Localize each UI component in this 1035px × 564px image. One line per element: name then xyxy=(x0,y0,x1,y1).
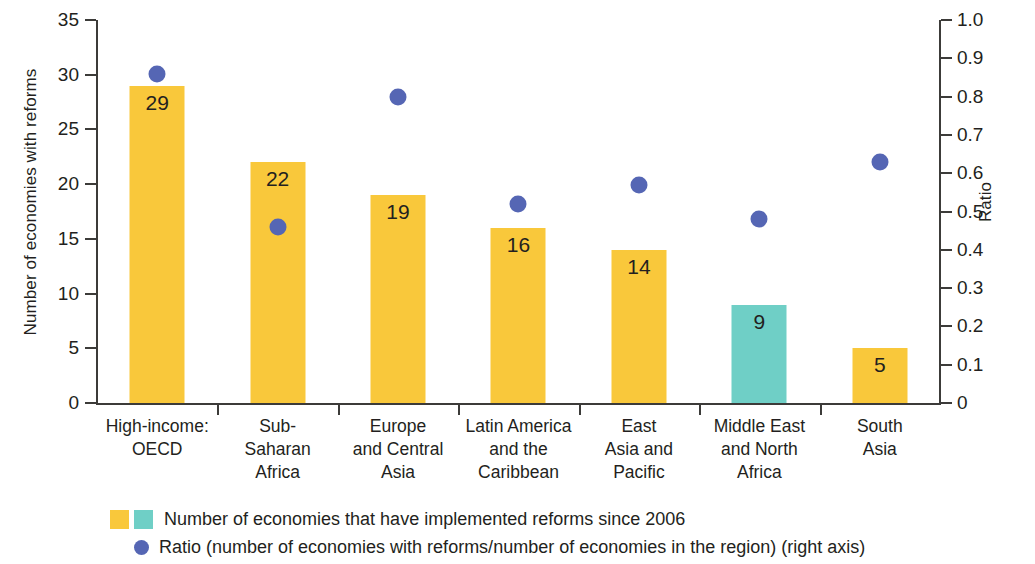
y-axis-left-tick-label: 30 xyxy=(17,65,79,84)
bar: 5 xyxy=(852,348,907,403)
x-axis-category-label: SouthAsia xyxy=(812,415,948,461)
y-axis-right-tick xyxy=(941,96,952,98)
y-axis-right-tick-label: 0.6 xyxy=(957,163,1027,182)
y-axis-left-tick-label: 10 xyxy=(17,284,79,303)
ratio-dot xyxy=(510,195,527,212)
bar-value-label: 16 xyxy=(491,234,546,255)
x-axis-category-label: EastAsia andPacific xyxy=(571,415,707,484)
y-axis-right-tick-label: 0 xyxy=(957,393,1027,412)
y-axis-right-tick-label: 0.1 xyxy=(957,355,1027,374)
legend-label-bars: Number of economies that have implemente… xyxy=(164,507,685,531)
y-axis-left-tick xyxy=(85,19,96,21)
category-label-line: Asia xyxy=(812,438,948,461)
x-axis-category-label: Sub-SaharanAfrica xyxy=(209,415,345,484)
legend-swatch-yellow xyxy=(110,510,129,529)
bar-value-label: 14 xyxy=(611,256,666,277)
y-axis-right-tick xyxy=(941,134,952,136)
y-axis-right-tick xyxy=(941,325,952,327)
y-axis-right-tick-label: 0.2 xyxy=(957,316,1027,335)
category-label-line: OECD xyxy=(89,438,225,461)
x-axis-tick xyxy=(338,405,340,415)
y-axis-left-tick-label: 5 xyxy=(17,338,79,357)
y-axis-left-tick xyxy=(85,402,96,404)
y-axis-right-tick xyxy=(941,172,952,174)
category-label-line: South xyxy=(812,415,948,438)
y-axis-left-tick-label: 0 xyxy=(17,393,79,412)
y-axis-right-tick-label: 0.7 xyxy=(957,125,1027,144)
x-axis-category-label: Middle Eastand NorthAfrica xyxy=(691,415,827,484)
y-axis-right-tick xyxy=(941,211,952,213)
y-axis-right-tick xyxy=(941,57,952,59)
y-axis-left-tick xyxy=(85,74,96,76)
category-label-line: Asia xyxy=(330,461,466,484)
category-label-line: High-income: xyxy=(89,415,225,438)
category-label-line: Asia and xyxy=(571,438,707,461)
legend-marker-dot xyxy=(134,540,149,555)
y-axis-right-tick-label: 0.3 xyxy=(957,278,1027,297)
y-axis-right-tick xyxy=(941,402,952,404)
legend-item-bars: Number of economies that have implemente… xyxy=(0,505,1035,533)
y-axis-left-tick xyxy=(85,293,96,295)
plot-area: 292219161495 xyxy=(97,20,940,403)
category-label-line: Middle East xyxy=(691,415,827,438)
bar-group: 19 xyxy=(338,20,458,403)
chart-figure: Number of economies with reforms Ratio 0… xyxy=(0,0,1035,564)
legend-item-ratio: Ratio (number of economies with reforms/… xyxy=(0,533,1035,561)
x-axis-category-label: Latin Americaand theCaribbean xyxy=(450,415,586,484)
category-label-line: and the xyxy=(450,438,586,461)
y-axis-right-tick xyxy=(941,19,952,21)
ratio-dot xyxy=(390,88,407,105)
bar: 22 xyxy=(250,162,305,403)
category-label-line: Africa xyxy=(691,461,827,484)
bar: 19 xyxy=(371,195,426,403)
ratio-dot xyxy=(751,211,768,228)
ratio-dot xyxy=(630,176,647,193)
y-axis-left-tick-label: 15 xyxy=(17,229,79,248)
bar: 9 xyxy=(732,305,787,403)
category-label-line: and Central xyxy=(330,438,466,461)
category-label-line: Sub- xyxy=(209,415,345,438)
x-axis-tick xyxy=(579,405,581,415)
y-axis-right-tick-label: 0.8 xyxy=(957,87,1027,106)
y-axis-right-tick-label: 0.9 xyxy=(957,48,1027,67)
bar-value-label: 22 xyxy=(250,168,305,189)
y-axis-left-title: Number of economies with reforms xyxy=(21,37,41,367)
bar-group: 9 xyxy=(699,20,819,403)
legend-swatch-teal xyxy=(134,510,153,529)
bar-group: 29 xyxy=(97,20,217,403)
bar-group: 14 xyxy=(579,20,699,403)
bar-value-label: 5 xyxy=(852,354,907,375)
y-axis-left-tick xyxy=(85,347,96,349)
category-label-line: Pacific xyxy=(571,461,707,484)
category-label-line: Europe xyxy=(330,415,466,438)
bar-group: 16 xyxy=(458,20,578,403)
x-axis-tick xyxy=(820,405,822,415)
bar: 14 xyxy=(611,250,666,403)
x-axis-tick xyxy=(699,405,701,415)
y-axis-left-tick-label: 35 xyxy=(17,10,79,29)
x-axis-tick xyxy=(217,405,219,415)
y-axis-left-tick-label: 25 xyxy=(17,119,79,138)
ratio-dot xyxy=(149,65,166,82)
x-axis-tick xyxy=(458,405,460,415)
category-label-line: Latin America xyxy=(450,415,586,438)
ratio-dot xyxy=(269,218,286,235)
y-axis-right-tick-label: 0.5 xyxy=(957,202,1027,221)
bar: 29 xyxy=(130,86,185,403)
y-axis-right-tick-label: 0.4 xyxy=(957,240,1027,259)
bar-group: 22 xyxy=(217,20,337,403)
chart-legend: Number of economies that have implemente… xyxy=(0,505,1035,561)
category-label-line: and North xyxy=(691,438,827,461)
category-label-line: Saharan xyxy=(209,438,345,461)
ratio-dot xyxy=(871,153,888,170)
y-axis-left-tick xyxy=(85,128,96,130)
bar-value-label: 9 xyxy=(732,311,787,332)
legend-label-ratio: Ratio (number of economies with reforms/… xyxy=(159,535,865,559)
bar-value-label: 19 xyxy=(371,201,426,222)
category-label-line: East xyxy=(571,415,707,438)
y-axis-right-tick-label: 1.0 xyxy=(957,10,1027,29)
y-axis-right-tick xyxy=(941,249,952,251)
category-label-line: Africa xyxy=(209,461,345,484)
y-axis-left-tick-label: 20 xyxy=(17,174,79,193)
x-axis-category-label: High-income:OECD xyxy=(89,415,225,461)
